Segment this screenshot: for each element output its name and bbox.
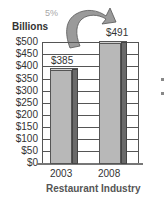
y-tick: $0 <box>8 158 38 168</box>
y-tick: $450 <box>8 49 38 59</box>
y-axis-unit: Billions <box>12 21 48 32</box>
x-tick-2008: 2008 <box>98 168 120 179</box>
y-tick: $350 <box>8 74 38 84</box>
y-tick: $400 <box>8 61 38 71</box>
x-tick-2003: 2003 <box>50 168 72 179</box>
y-tick: $250 <box>8 98 38 108</box>
y-tick: $50 <box>8 146 38 156</box>
growth-annotation: 5% <box>45 8 58 18</box>
bar-2003-value: $385 <box>51 55 73 66</box>
y-tick: $300 <box>8 86 38 96</box>
cropped-edge-fragment <box>161 70 164 110</box>
bar-2008-value: $491 <box>106 27 128 38</box>
y-tick: $200 <box>8 110 38 120</box>
y-tick: $150 <box>8 122 38 132</box>
x-axis-label: Restaurant Industry <box>46 183 140 194</box>
y-tick: $100 <box>8 134 38 144</box>
y-tick: $500 <box>8 37 38 47</box>
